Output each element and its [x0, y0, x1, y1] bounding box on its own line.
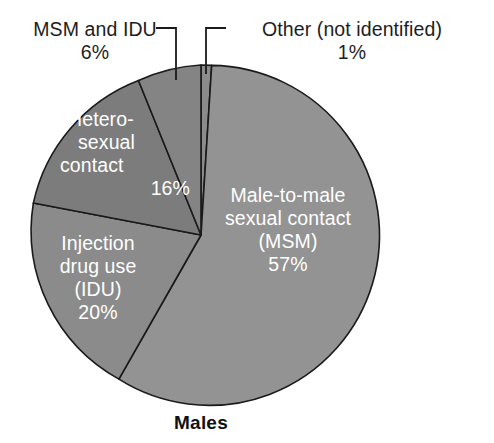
slice-label-hetero-line1: Hetero- [58, 108, 190, 131]
slice-label-idu-percent: 20% [28, 301, 168, 324]
slice-label-injection-drug-use: Injection drug use (IDU) 20% [28, 232, 168, 324]
slice-label-idu-line1: Injection [28, 232, 168, 255]
slice-label-idu-line3: (IDU) [28, 278, 168, 301]
chart-caption: Males [0, 412, 402, 434]
callout-other-percent: 1% [226, 41, 478, 64]
slice-label-msm-line3: (MSM) [202, 230, 374, 253]
pie-chart-figure: MSM and IDU 6% Other (not identified) 1%… [0, 0, 494, 443]
slice-label-hetero-line3: contact [58, 154, 190, 177]
slice-label-msm-line1: Male-to-male [202, 184, 374, 207]
callout-label-msm-and-idu: MSM and IDU 6% [6, 18, 184, 63]
slice-label-idu-line2: drug use [28, 255, 168, 278]
callout-msm-and-idu-name: MSM and IDU [33, 18, 157, 40]
slice-label-msm-line2: sexual contact [202, 207, 374, 230]
slice-label-male-to-male-sexual-contact: Male-to-male sexual contact (MSM) 57% [202, 184, 374, 276]
slice-label-heterosexual-contact: Hetero- sexual contact 16% [58, 108, 190, 200]
callout-other-name: Other (not identified) [262, 18, 442, 40]
callout-msm-and-idu-percent: 6% [6, 41, 184, 64]
slice-label-msm-percent: 57% [202, 253, 374, 276]
callout-label-other: Other (not identified) 1% [226, 18, 478, 63]
slice-label-hetero-percent: 16% [58, 177, 190, 200]
slice-label-hetero-line2: sexual [58, 131, 190, 154]
